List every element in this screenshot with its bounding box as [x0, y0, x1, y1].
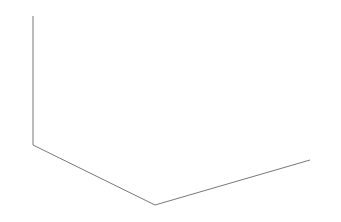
- chart-canvas: [0, 0, 341, 222]
- y-axis: [33, 145, 155, 205]
- y-axis-line: [33, 145, 155, 205]
- x-axis-line: [155, 160, 310, 205]
- x-axis: [155, 160, 310, 205]
